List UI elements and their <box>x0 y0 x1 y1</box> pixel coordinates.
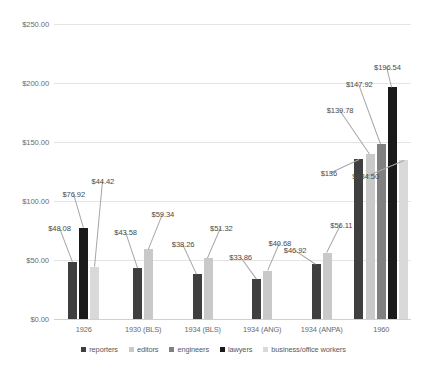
bar[interactable] <box>312 264 321 319</box>
bar[interactable] <box>252 279 261 319</box>
chart-legend: reporterseditorsengineerslawyersbusiness… <box>0 345 427 354</box>
legend-label: business/office workers <box>271 345 345 354</box>
bar[interactable] <box>323 253 332 319</box>
data-label: $134.50 <box>352 172 379 181</box>
data-label: $196.54 <box>374 63 401 72</box>
data-label: $44.42 <box>92 176 115 185</box>
bar[interactable] <box>263 271 272 319</box>
x-axis-tick-label: 1934 (ANPA) <box>292 325 352 334</box>
bar[interactable] <box>354 159 363 319</box>
data-label: $51.32 <box>210 224 233 233</box>
gridline <box>54 319 411 320</box>
legend-label: editors <box>137 345 158 354</box>
bar[interactable] <box>399 160 408 319</box>
bar[interactable] <box>133 268 142 319</box>
bar-group: 1930 (BLS) <box>114 24 174 319</box>
data-label: $56.11 <box>330 220 352 229</box>
bar-group: 1934 (BLS) <box>173 24 233 319</box>
bar[interactable] <box>79 228 88 319</box>
x-axis-tick-label: 1930 (BLS) <box>114 325 174 334</box>
bar[interactable] <box>144 249 153 319</box>
bar-group: 1926 <box>54 24 114 319</box>
bar[interactable] <box>388 87 397 319</box>
y-axis-tick-label: $250.00 <box>22 20 49 29</box>
bar[interactable] <box>68 262 77 319</box>
bar[interactable] <box>90 267 99 319</box>
data-label: $147.92 <box>346 80 373 89</box>
legend-item[interactable]: editors <box>129 345 158 354</box>
data-label: $33.86 <box>229 253 252 262</box>
legend-swatch-icon <box>81 347 86 352</box>
plot-area: $0.00$50.00$100.00$150.00$200.00$250.00 … <box>54 24 411 319</box>
legend-label: engineers <box>177 345 209 354</box>
bar[interactable] <box>193 274 202 319</box>
bar-group: 1934 (ANG) <box>233 24 293 319</box>
data-label: $48.08 <box>48 224 71 233</box>
bar-chart: $0.00$50.00$100.00$150.00$200.00$250.00 … <box>0 0 427 372</box>
legend-item[interactable]: lawyers <box>220 345 252 354</box>
y-axis-tick-label: $200.00 <box>22 79 49 88</box>
bar[interactable] <box>204 258 213 319</box>
x-axis-tick-label: 1926 <box>54 325 114 334</box>
x-axis-tick-label: 1934 (ANG) <box>233 325 293 334</box>
legend-label: lawyers <box>228 345 252 354</box>
y-axis-tick-label: $100.00 <box>22 197 49 206</box>
legend-item[interactable]: business/office workers <box>263 345 345 354</box>
x-axis-tick-label: 1960 <box>352 325 412 334</box>
data-label: $136 <box>321 168 338 177</box>
data-label: $139.78 <box>327 106 354 115</box>
legend-swatch-icon <box>263 347 268 352</box>
data-label: $46.92 <box>284 245 307 254</box>
legend-swatch-icon <box>220 347 225 352</box>
y-axis-tick-label: $0.00 <box>30 315 49 324</box>
data-label: $59.34 <box>152 209 175 218</box>
y-axis-tick-label: $150.00 <box>22 138 49 147</box>
y-axis-tick-label: $50.00 <box>26 256 49 265</box>
data-label: $76.92 <box>62 190 85 199</box>
legend-item[interactable]: engineers <box>169 345 209 354</box>
data-label: $43.58 <box>114 227 137 236</box>
legend-label: reporters <box>89 345 118 354</box>
data-label: $38.26 <box>172 239 195 248</box>
legend-swatch-icon <box>169 347 174 352</box>
legend-swatch-icon <box>129 347 134 352</box>
x-axis-tick-label: 1934 (BLS) <box>173 325 233 334</box>
legend-item[interactable]: reporters <box>81 345 118 354</box>
